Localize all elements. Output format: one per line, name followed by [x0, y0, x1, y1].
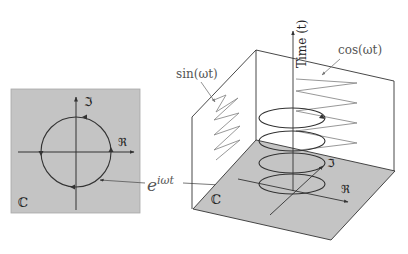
imaginary-axis-label: ℑ	[84, 95, 92, 109]
complex-exponential-diagram: ℑ ℜ ℂ eiωt	[0, 0, 408, 254]
left-complex-plane: ℑ ℜ ℂ	[11, 89, 140, 213]
cosine-label-pointer	[322, 59, 340, 75]
helix-3d-box: Time (t) sin(ωt) cos(ωt) ℂ ℑ ℜ	[176, 20, 395, 240]
floor-plane-label: ℂ	[211, 192, 221, 207]
floor-real-label: ℜ	[341, 183, 350, 196]
complex-plane-label: ℂ	[18, 195, 28, 210]
cosine-label: cos(ωt)	[338, 43, 382, 57]
sine-wave-projection	[214, 95, 240, 160]
sine-label-pointer	[201, 82, 215, 102]
floor-complex-plane	[193, 140, 395, 240]
sine-label: sin(ωt)	[176, 67, 218, 81]
cosine-wave-projection	[296, 79, 357, 150]
real-axis-label: ℜ	[118, 136, 127, 149]
exponential-label: eiωt	[147, 174, 175, 195]
time-axis-label: Time (t)	[295, 20, 309, 68]
floor-imaginary-label: ℑ	[327, 157, 335, 170]
